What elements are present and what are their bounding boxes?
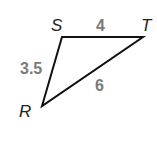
side-label-sr: 3.5 bbox=[20, 60, 42, 77]
triangle-diagram: S T R 4 3.5 6 bbox=[0, 0, 157, 151]
vertex-label-t: T bbox=[141, 16, 153, 35]
vertex-label-r: R bbox=[19, 102, 31, 121]
vertex-label-s: S bbox=[51, 16, 63, 35]
triangle-srt bbox=[42, 37, 143, 106]
side-label-st: 4 bbox=[96, 17, 105, 34]
side-label-rt: 6 bbox=[95, 77, 104, 94]
